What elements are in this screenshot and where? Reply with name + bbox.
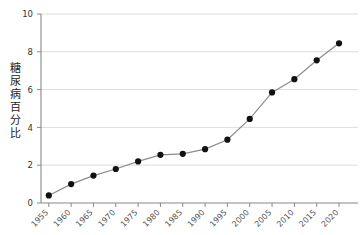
y-tick-label-6: 6 <box>28 85 33 95</box>
data-point-1970 <box>113 166 119 172</box>
data-point-2010 <box>291 76 297 82</box>
data-point-2020 <box>336 40 342 46</box>
x-tick-label-2010: 2010 <box>275 208 296 229</box>
x-tick-label-2020: 2020 <box>320 208 341 229</box>
x-tick-label-1990: 1990 <box>186 208 207 229</box>
axes <box>41 14 358 203</box>
diabetes-percentage-line-chart: 糖尿病百分比 10 8 6 4 <box>0 0 364 235</box>
data-point-2005 <box>269 89 275 95</box>
y-tick-label-10: 10 <box>22 9 33 19</box>
x-tick-marks <box>49 203 339 207</box>
x-tick-label-2005: 2005 <box>253 208 274 229</box>
series-data-points <box>46 40 342 198</box>
data-point-1985 <box>180 151 186 157</box>
x-tick-label-1965: 1965 <box>74 208 95 229</box>
data-point-2015 <box>314 57 320 63</box>
x-tick-label-1970: 1970 <box>96 208 117 229</box>
x-tick-label-1955: 1955 <box>29 208 50 229</box>
data-point-1955 <box>46 192 52 198</box>
y-tick-label-2: 2 <box>28 160 33 170</box>
y-tick-label-8: 8 <box>28 47 33 57</box>
chart-canvas: 10 8 6 4 2 0 195519601965197019751980198… <box>0 0 364 235</box>
data-point-1995 <box>224 137 230 143</box>
y-tick-label-4: 4 <box>28 123 33 133</box>
data-point-2000 <box>247 116 253 122</box>
data-point-1990 <box>202 146 208 152</box>
x-tick-label-1960: 1960 <box>52 208 73 229</box>
x-tick-label-1985: 1985 <box>163 208 184 229</box>
x-tick-label-1980: 1980 <box>141 208 162 229</box>
x-tick-label-2000: 2000 <box>230 208 251 229</box>
y-tick-label-0: 0 <box>28 198 33 208</box>
series-line-diabetes <box>49 43 339 195</box>
x-tick-labels: 1955196019651970197519801985199019952000… <box>29 208 340 229</box>
data-point-1960 <box>68 181 74 187</box>
data-point-1975 <box>135 158 141 164</box>
data-point-1965 <box>90 172 96 178</box>
data-point-1980 <box>157 152 163 158</box>
grid-lines <box>41 14 358 165</box>
y-tick-marks <box>37 14 41 203</box>
x-tick-label-1975: 1975 <box>119 208 140 229</box>
x-tick-label-1995: 1995 <box>208 208 229 229</box>
x-tick-label-2015: 2015 <box>297 208 318 229</box>
y-axis-label: 糖尿病百分比 <box>6 62 24 140</box>
